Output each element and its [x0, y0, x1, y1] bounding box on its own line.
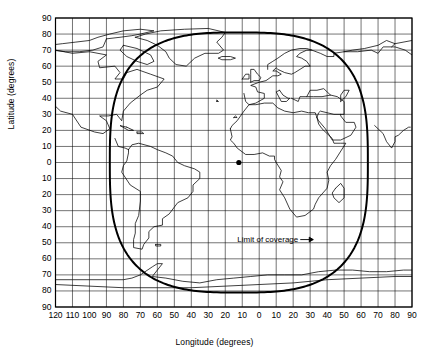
y-tick-label: 30	[30, 206, 52, 215]
y-tick-label: 50	[30, 78, 52, 87]
y-tick-label: 90	[30, 303, 52, 312]
y-tick-label: 50	[30, 238, 52, 247]
coastlines	[47, 28, 420, 287]
y-tick-label: 40	[30, 222, 52, 231]
limit-of-coverage-label: Limit of coverage	[237, 235, 298, 244]
y-tick-label: 20	[30, 126, 52, 135]
x-axis-title: Longitude (degrees)	[0, 337, 429, 347]
y-tick-label: 30	[30, 110, 52, 119]
y-tick-label: 60	[30, 62, 52, 71]
y-tick-label: 70	[30, 46, 52, 55]
y-tick-label: 90	[30, 14, 52, 23]
coverage-map-figure: Limit of coverage 1201101009080706050403…	[0, 0, 429, 358]
y-axis-title: Latitude (degrees)	[6, 34, 16, 154]
y-tick-label: 80	[30, 30, 52, 39]
x-tick-label: 90	[402, 311, 422, 320]
coverage-plot-svg: Limit of coverage	[0, 0, 429, 358]
y-tick-label: 70	[30, 270, 52, 279]
sub-satellite-dot	[236, 160, 241, 165]
y-tick-label: 10	[30, 174, 52, 183]
sub-satellite-point-marker	[236, 160, 241, 165]
y-tick-label: 20	[30, 190, 52, 199]
y-tick-label: 10	[30, 142, 52, 151]
y-tick-label: 40	[30, 94, 52, 103]
y-tick-label: 0	[30, 158, 52, 167]
y-tick-label: 80	[30, 286, 52, 295]
y-tick-label: 60	[30, 254, 52, 263]
